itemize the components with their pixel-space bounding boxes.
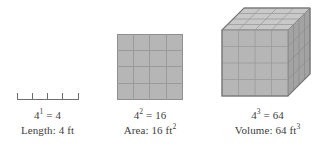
- figure-column-volume: 43 = 64 Volume: 64 ft3: [205, 0, 330, 153]
- square-illustration: [100, 34, 200, 104]
- square-cell: [167, 84, 184, 101]
- ruler-baseline: [17, 99, 79, 100]
- caption-volume-text: Volume: 64 ft: [235, 124, 297, 136]
- caption-group-length: 41 = 4 Length: 4 ft: [0, 108, 95, 138]
- square-cell: [167, 34, 184, 51]
- caption-area-exponent: 2: [172, 122, 176, 131]
- cube-illustration: [205, 6, 330, 104]
- ruler-tick-0: [17, 93, 18, 100]
- cube-front-face: [222, 30, 288, 96]
- equation-area: 42 = 16: [100, 108, 200, 123]
- square-cell: [167, 51, 184, 68]
- square-cell: [117, 51, 134, 68]
- square-grid-icon: [117, 34, 183, 100]
- caption-volume: Volume: 64 ft3: [205, 123, 330, 138]
- caption-group-area: 42 = 16 Area: 16 ft2: [100, 108, 200, 138]
- ruler-tick-2: [47, 93, 48, 100]
- square-cell: [134, 34, 151, 51]
- figure-column-area: 42 = 16 Area: 16 ft2: [100, 0, 200, 153]
- square-cell: [117, 84, 134, 101]
- ruler-icon: [17, 88, 79, 100]
- caption-area-text: Area: 16 ft: [124, 124, 173, 136]
- square-cell: [134, 84, 151, 101]
- square-cell: [117, 67, 134, 84]
- figure-powers-of-four: 41 = 4 Length: 4 ft: [0, 0, 330, 153]
- cube-svg: [220, 6, 315, 102]
- equation-volume-tail: = 64: [261, 109, 284, 121]
- equation-length: 41 = 4: [0, 108, 95, 123]
- square-grid: [117, 34, 183, 100]
- equation-area-tail: = 16: [143, 109, 166, 121]
- square-cell: [150, 67, 167, 84]
- ruler-tick-4: [78, 93, 79, 100]
- cube-grid-icon: [220, 6, 315, 102]
- caption-area: Area: 16 ft2: [100, 123, 200, 138]
- ruler-illustration: [0, 88, 95, 106]
- square-cell: [134, 51, 151, 68]
- equation-length-tail: = 4: [43, 109, 61, 121]
- square-cell: [167, 67, 184, 84]
- square-cell: [134, 67, 151, 84]
- caption-volume-exponent: 3: [296, 122, 300, 131]
- ruler-tick-1: [32, 93, 33, 100]
- square-cell: [150, 84, 167, 101]
- caption-group-volume: 43 = 64 Volume: 64 ft3: [205, 108, 330, 138]
- ruler-tick-3: [62, 93, 63, 100]
- square-cell: [117, 34, 134, 51]
- square-cell: [150, 34, 167, 51]
- square-cell: [150, 51, 167, 68]
- figure-column-length: 41 = 4 Length: 4 ft: [0, 0, 95, 153]
- equation-volume: 43 = 64: [205, 108, 330, 123]
- caption-length: Length: 4 ft: [0, 123, 95, 138]
